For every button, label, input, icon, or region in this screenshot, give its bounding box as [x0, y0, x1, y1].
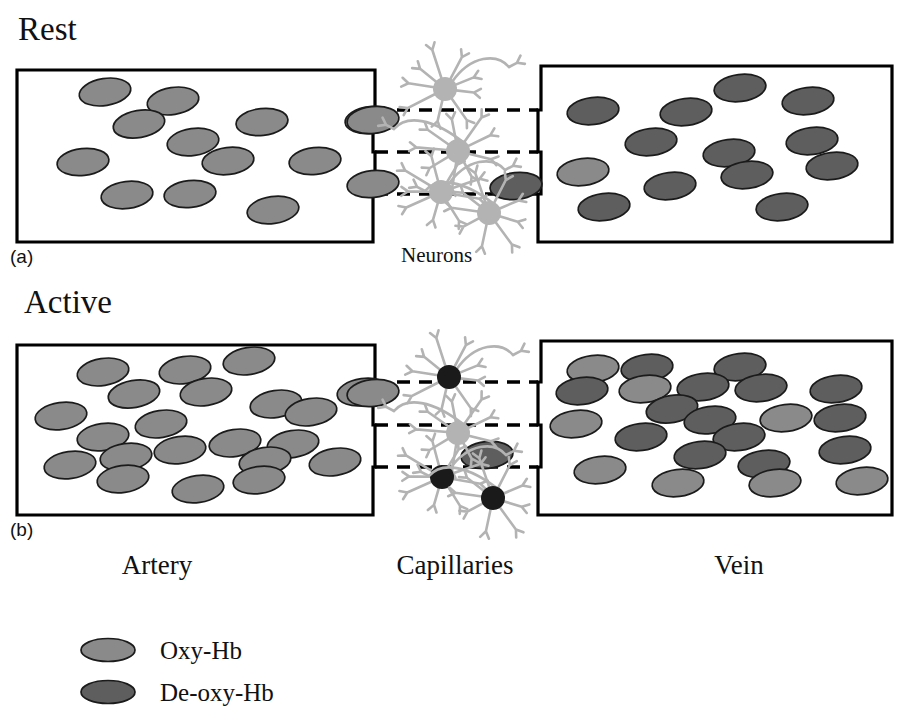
neuron-dendrite — [448, 487, 482, 496]
column-label-vein: Vein — [714, 550, 764, 580]
neuron-soma-active — [437, 365, 461, 389]
neuron-dendrite — [427, 203, 438, 228]
neuron-dendrite — [398, 196, 431, 214]
figure-root: Rest Neurons (a) Active — [0, 0, 908, 725]
panel-sublabel-a: (a) — [10, 246, 33, 267]
neuron-dendrite — [404, 382, 440, 403]
legend-label-1: De-oxy-Hb — [160, 679, 274, 706]
title-rest: Rest — [18, 11, 77, 47]
neuron-soma-inactive — [433, 77, 457, 101]
neuron-dendrite — [405, 366, 438, 376]
neuron-soma-inactive — [477, 201, 501, 225]
legend-swatch-0 — [81, 639, 135, 662]
neuron-dendrite — [454, 337, 473, 367]
neuron-soma-active — [481, 486, 505, 510]
neuron-dendrite — [503, 479, 530, 494]
neuron-rest-0 — [400, 42, 525, 128]
legend-label-0: Oxy-Hb — [160, 637, 242, 664]
neuron-axon-terminal — [513, 344, 529, 355]
neuron-dendrite — [409, 142, 447, 151]
neuron-dendrite — [450, 49, 469, 79]
panel-active: Active (b) — [10, 284, 892, 540]
column-label-artery: Artery — [122, 550, 193, 580]
neuron-dendrite — [430, 330, 446, 366]
neuron-axon-terminal — [505, 159, 521, 170]
neuron-dendrite — [459, 503, 483, 519]
neuron-dendrite — [499, 507, 523, 538]
panel-sublabel-b: (b) — [10, 519, 33, 540]
neuron-dendrite — [495, 222, 519, 253]
neuron-axon-terminal — [509, 56, 525, 67]
neuron-dendrite — [456, 89, 481, 98]
neuron-dendrite — [401, 78, 434, 88]
neuron-dendrite — [500, 216, 526, 228]
neurovascular-diagram: Rest Neurons (a) Active — [0, 0, 908, 725]
neuron-group-active — [378, 330, 530, 538]
neuron-dendrite — [455, 386, 478, 416]
title-active: Active — [24, 284, 112, 320]
neuron-dendrite — [400, 94, 436, 115]
neuron-dendrite — [480, 509, 491, 539]
neurons-label: Neurons — [401, 243, 472, 267]
neuron-dendrite — [428, 488, 439, 513]
neuron-rest-3 — [409, 166, 526, 254]
neuron-dendrite — [416, 349, 440, 370]
neuron-dendrite — [412, 61, 436, 82]
column-labels: Artery Capillaries Vein — [122, 550, 764, 580]
legend: Oxy-HbDe-oxy-Hb — [81, 637, 274, 706]
panel-rest: Rest Neurons (a) — [10, 11, 892, 267]
neuron-dendrite — [476, 224, 487, 254]
neuron-dendrite — [426, 42, 442, 78]
neuron-dendrite — [448, 486, 467, 514]
neuron-group-rest — [378, 42, 526, 253]
neuron-dendrite — [399, 481, 432, 499]
neuron-dendrite — [504, 501, 530, 513]
legend-swatch-1 — [81, 681, 135, 704]
column-label-capillaries: Capillaries — [397, 550, 514, 580]
